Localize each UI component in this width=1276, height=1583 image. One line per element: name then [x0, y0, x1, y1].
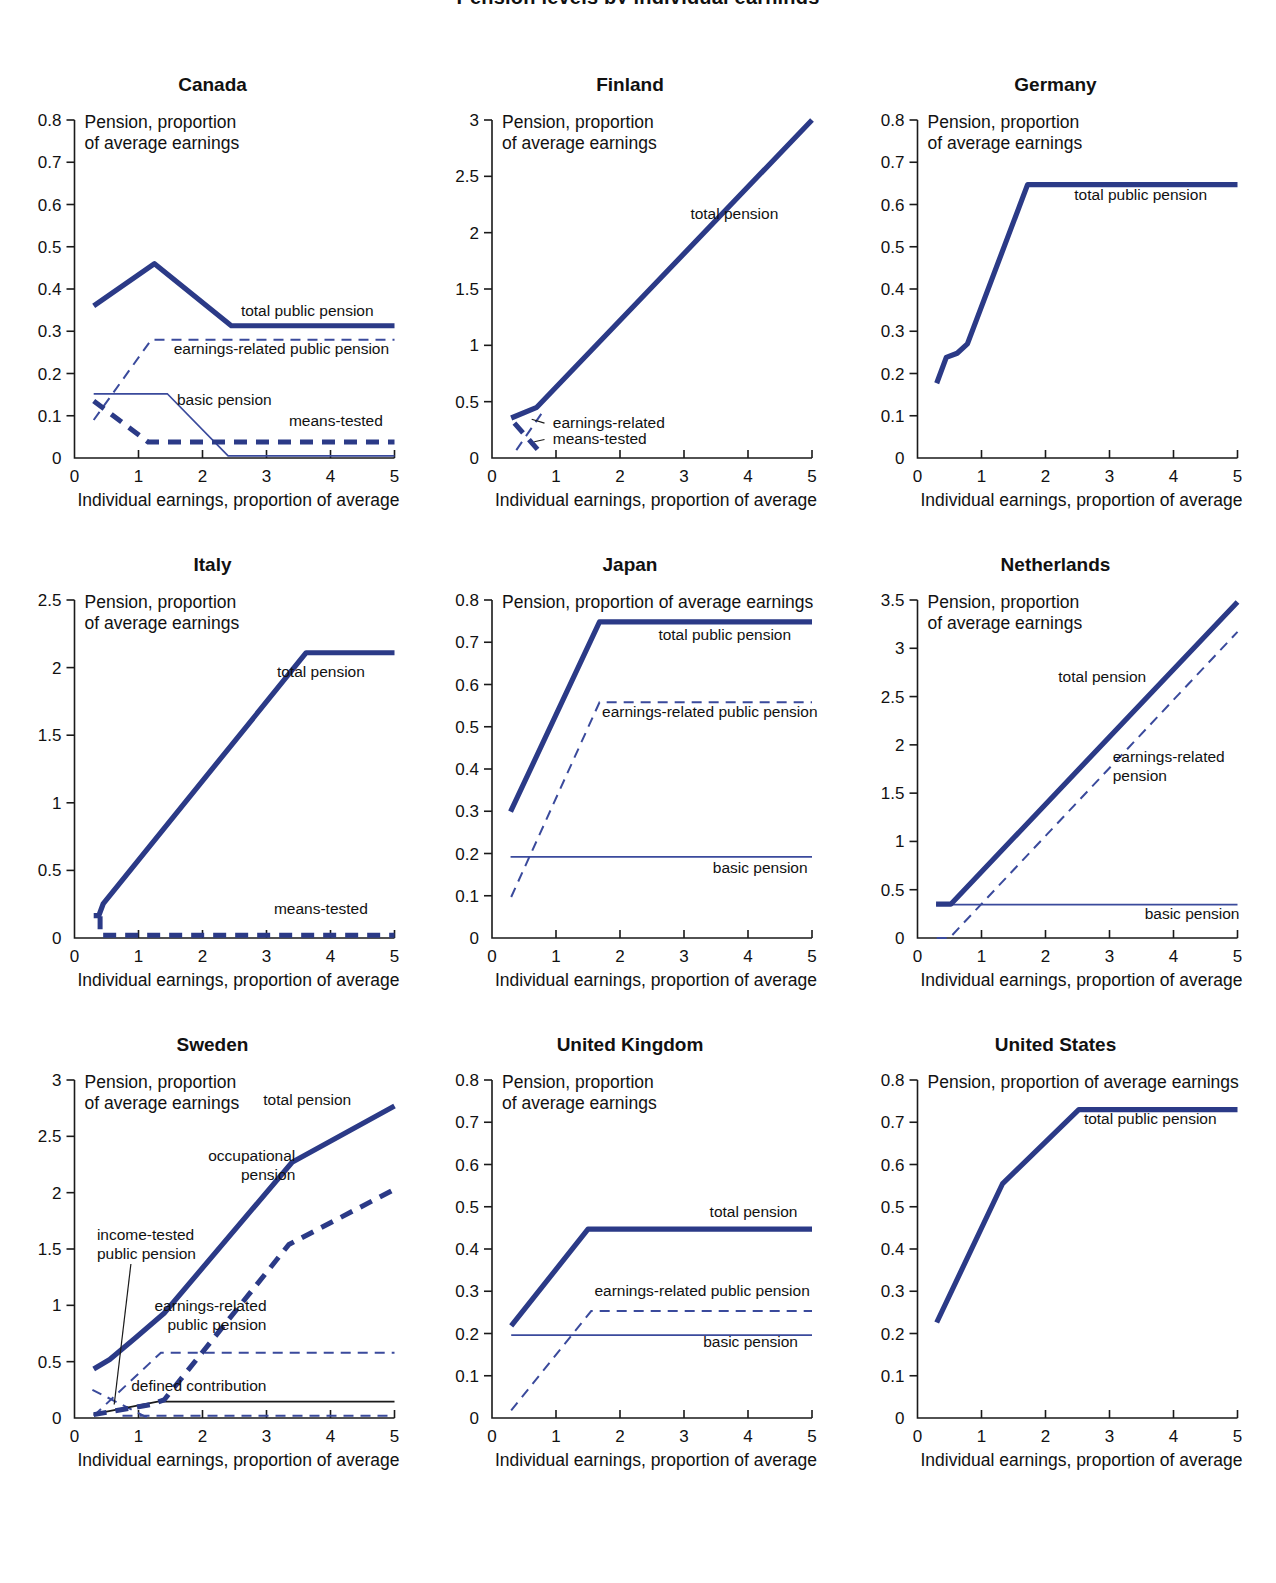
series-annotation-label: public pension: [167, 1316, 266, 1333]
x-tick-label: 2: [1041, 1427, 1050, 1446]
series-annotation-label: basic pension: [703, 1333, 798, 1350]
y-tick-label: 0.6: [455, 676, 479, 695]
x-tick-label: 4: [326, 1427, 335, 1446]
x-tick-label: 0: [487, 1427, 496, 1446]
y-tick-label: 0.2: [881, 1325, 905, 1344]
y-tick-label: 0.5: [38, 861, 62, 880]
series-annotation-label: earnings-related public pension: [174, 340, 389, 357]
y-tick-label: 0.7: [455, 633, 479, 652]
y-tick-label: 0: [470, 449, 479, 468]
x-tick-label: 5: [1233, 1427, 1242, 1446]
x-tick-label: 4: [1169, 467, 1178, 486]
x-tick-label: 5: [807, 467, 816, 486]
x-tick-label: 4: [743, 947, 752, 966]
y-tick-label: 0.5: [881, 1198, 905, 1217]
chart-plot-netherlands: 00.511.522.533.5012345Pension, proportio…: [835, 586, 1276, 1006]
chart-plot-germany: 00.10.20.30.40.50.60.70.8012345Pension, …: [835, 106, 1276, 526]
y-tick-label: 2: [52, 659, 61, 678]
series-line: [514, 423, 543, 456]
x-tick-label: 3: [1105, 467, 1114, 486]
x-axis-caption: Individual earnings, proportion of avera…: [495, 970, 817, 990]
series-annotation-label: earnings-related public pension: [602, 703, 817, 720]
series-line: [511, 1311, 812, 1410]
y-axis-caption: Pension, proportion of average earnings: [502, 592, 814, 612]
y-tick-label: 2.5: [455, 167, 479, 186]
chart-grid: Canada 00.10.20.30.40.50.60.70.8012345Pe…: [0, 60, 1276, 1510]
y-tick-label: 0: [52, 929, 61, 948]
x-axis-caption: Individual earnings, proportion of avera…: [77, 490, 399, 510]
y-tick-label: 0.7: [455, 1113, 479, 1132]
x-tick-label: 0: [913, 467, 922, 486]
x-axis-caption: Individual earnings, proportion of avera…: [920, 970, 1242, 990]
series-annotation-label: total pension: [277, 663, 365, 680]
x-axis-caption: Individual earnings, proportion of avera…: [77, 970, 399, 990]
y-tick-label: 1.5: [38, 1240, 62, 1259]
series-annotation-label: total public pension: [1084, 1110, 1217, 1127]
y-tick-label: 0.4: [881, 280, 905, 299]
y-tick-label: 0.5: [455, 718, 479, 737]
x-tick-label: 0: [913, 1427, 922, 1446]
series-annotation-label: total pension: [263, 1091, 351, 1108]
y-tick-label: 0.1: [881, 1367, 905, 1386]
y-axis-caption-line2: of average earnings: [85, 1093, 240, 1113]
x-tick-label: 3: [679, 467, 688, 486]
x-tick-label: 2: [1041, 947, 1050, 966]
y-tick-label: 2.5: [38, 1127, 62, 1146]
series-annotation-label: pension: [1113, 767, 1167, 784]
series-annotation-label: total pension: [710, 1203, 798, 1220]
series-annotation-label: means-tested: [274, 900, 368, 917]
series-line: [511, 120, 812, 418]
x-tick-label: 2: [198, 1427, 207, 1446]
chart-panel-germany: Germany 00.10.20.30.40.50.60.70.8012345P…: [835, 60, 1276, 540]
chart-panel-japan: Japan 00.10.20.30.40.50.60.70.8012345Pen…: [425, 540, 835, 1020]
y-tick-label: 0.5: [881, 238, 905, 257]
y-tick-label: 2: [895, 736, 904, 755]
y-tick-label: 2.5: [881, 688, 905, 707]
chart-title-canada: Canada: [0, 74, 425, 96]
x-tick-label: 1: [977, 1427, 986, 1446]
x-tick-label: 1: [551, 1427, 560, 1446]
x-tick-label: 4: [1169, 947, 1178, 966]
x-tick-label: 5: [807, 1427, 816, 1446]
x-tick-label: 0: [487, 467, 496, 486]
series-annotation-label: earnings-related: [1113, 748, 1225, 765]
y-tick-label: 0.8: [455, 1071, 479, 1090]
series-annotation-label: public pension: [97, 1245, 196, 1262]
y-tick-label: 0.3: [455, 802, 479, 821]
y-tick-label: 0.1: [881, 407, 905, 426]
series-annotation-label: basic pension: [713, 859, 808, 876]
series-annotation-label: basic pension: [1145, 905, 1240, 922]
series-annotation-label: earnings-related: [154, 1297, 266, 1314]
x-tick-label: 1: [134, 467, 143, 486]
x-tick-label: 2: [615, 947, 624, 966]
x-tick-label: 4: [743, 467, 752, 486]
y-tick-label: 1: [52, 794, 61, 813]
x-axis-caption: Individual earnings, proportion of avera…: [495, 490, 817, 510]
y-axis-caption-line1: Pension, proportion: [928, 112, 1080, 132]
y-axis-caption-line1: Pension, proportion: [85, 1072, 237, 1092]
series-annotation-label: means-tested: [289, 412, 383, 429]
x-tick-label: 4: [1169, 1427, 1178, 1446]
x-tick-label: 2: [198, 947, 207, 966]
chart-plot-sweden: 00.511.522.53012345Pension, proportionof…: [0, 1066, 425, 1486]
series-annotation-label: occupational: [208, 1147, 295, 1164]
y-tick-label: 0.2: [455, 1325, 479, 1344]
y-tick-label: 1.5: [455, 280, 479, 299]
y-axis-caption-line2: of average earnings: [85, 613, 240, 633]
chart-plot-japan: 00.10.20.30.40.50.60.70.8012345Pension, …: [425, 586, 835, 1006]
x-tick-label: 1: [551, 467, 560, 486]
x-tick-label: 0: [70, 1427, 79, 1446]
y-axis-caption-line1: Pension, proportion: [85, 592, 237, 612]
y-tick-label: 0.4: [455, 1240, 479, 1259]
y-tick-label: 0.3: [38, 322, 62, 341]
y-tick-label: 3: [52, 1071, 61, 1090]
y-tick-label: 0.5: [38, 1353, 62, 1372]
x-tick-label: 3: [1105, 947, 1114, 966]
y-axis-caption: Pension, proportion of average earnings: [928, 1072, 1240, 1092]
y-tick-label: 0.2: [38, 365, 62, 384]
y-tick-label: 0.1: [455, 887, 479, 906]
x-tick-label: 5: [390, 467, 399, 486]
chart-panel-canada: Canada 00.10.20.30.40.50.60.70.8012345Pe…: [0, 60, 425, 540]
chart-title-finland: Finland: [425, 74, 835, 96]
x-tick-label: 5: [1233, 467, 1242, 486]
